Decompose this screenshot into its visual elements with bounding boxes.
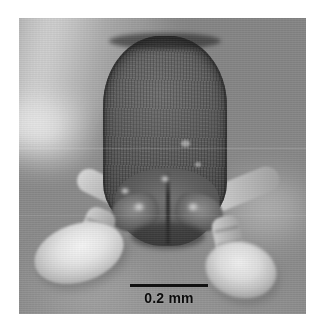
cuticle-fleck xyxy=(195,162,201,167)
palp-highlight xyxy=(131,200,147,214)
scan-seam-line xyxy=(19,148,306,149)
cuticle-fleck xyxy=(181,140,190,147)
figure-root: 0.2 mm xyxy=(0,0,321,335)
palp-highlight xyxy=(119,186,131,196)
micrograph-image: 0.2 mm xyxy=(19,18,306,314)
palp-highlight xyxy=(159,174,171,184)
labrum xyxy=(131,223,205,249)
palp-highlight xyxy=(185,200,201,214)
scan-seam-line xyxy=(19,215,306,216)
antennal-segment-joint xyxy=(214,226,238,233)
